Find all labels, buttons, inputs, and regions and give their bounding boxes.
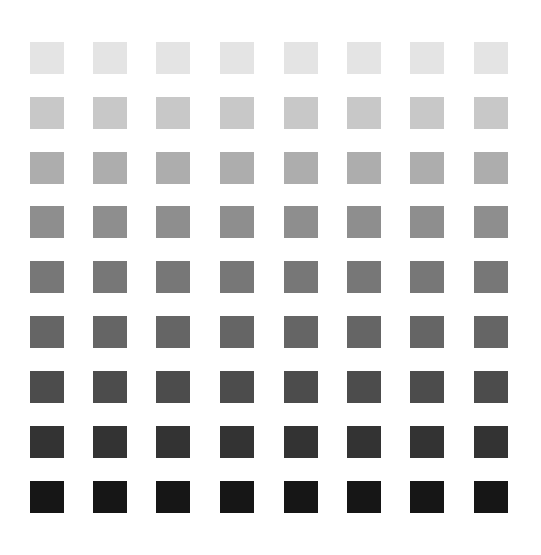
gray-swatch: [284, 426, 318, 458]
gray-swatch: [410, 152, 444, 184]
gray-swatch: [30, 481, 64, 513]
gray-swatch: [30, 316, 64, 348]
gray-swatch: [410, 481, 444, 513]
gray-swatch: [347, 426, 381, 458]
gray-swatch: [30, 206, 64, 238]
gray-swatch: [156, 426, 190, 458]
gray-swatch: [156, 152, 190, 184]
gray-swatch: [474, 152, 508, 184]
gray-swatch: [410, 371, 444, 403]
gray-swatch: [30, 152, 64, 184]
gray-swatch: [284, 206, 318, 238]
gray-swatch: [156, 97, 190, 129]
gray-swatch: [93, 426, 127, 458]
gray-swatch: [220, 481, 254, 513]
gray-swatch: [220, 42, 254, 74]
gray-swatch: [93, 97, 127, 129]
gray-swatch: [410, 426, 444, 458]
gray-swatch: [410, 42, 444, 74]
gray-swatch: [220, 261, 254, 293]
gray-swatch: [347, 481, 381, 513]
gray-swatch: [410, 261, 444, 293]
gray-swatch: [474, 426, 508, 458]
gray-swatch: [474, 206, 508, 238]
gray-swatch: [30, 42, 64, 74]
gray-swatch: [347, 206, 381, 238]
gray-swatch: [156, 42, 190, 74]
gray-swatch: [93, 316, 127, 348]
gray-swatch: [284, 371, 318, 403]
gray-swatch: [347, 152, 381, 184]
gray-swatch: [93, 481, 127, 513]
swatch-grid: [0, 0, 541, 555]
gray-swatch: [347, 97, 381, 129]
gray-swatch: [410, 97, 444, 129]
gray-swatch: [347, 42, 381, 74]
gray-swatch: [220, 97, 254, 129]
gray-swatch: [93, 42, 127, 74]
gray-swatch: [347, 261, 381, 293]
gray-swatch: [284, 261, 318, 293]
gray-swatch: [220, 426, 254, 458]
gray-swatch: [220, 316, 254, 348]
gray-swatch: [93, 371, 127, 403]
gray-swatch: [156, 261, 190, 293]
gray-swatch: [30, 371, 64, 403]
gray-swatch: [474, 371, 508, 403]
gray-swatch: [347, 316, 381, 348]
gray-swatch: [93, 261, 127, 293]
gray-swatch: [410, 316, 444, 348]
gray-swatch: [30, 426, 64, 458]
gray-swatch: [474, 481, 508, 513]
gray-swatch: [284, 42, 318, 74]
gray-swatch: [284, 316, 318, 348]
gray-swatch: [30, 97, 64, 129]
gray-swatch: [284, 97, 318, 129]
gray-swatch: [220, 371, 254, 403]
gray-swatch: [474, 42, 508, 74]
gray-swatch: [284, 481, 318, 513]
gray-swatch: [93, 206, 127, 238]
gray-swatch: [220, 206, 254, 238]
gray-swatch: [284, 152, 318, 184]
gray-swatch: [156, 481, 190, 513]
gray-swatch: [30, 261, 64, 293]
gray-swatch: [474, 316, 508, 348]
gray-swatch: [410, 206, 444, 238]
gray-swatch: [156, 371, 190, 403]
gray-swatch: [474, 97, 508, 129]
gray-swatch: [156, 316, 190, 348]
gray-swatch: [347, 371, 381, 403]
gray-swatch: [220, 152, 254, 184]
gray-swatch: [93, 152, 127, 184]
gray-swatch: [474, 261, 508, 293]
gray-swatch: [156, 206, 190, 238]
